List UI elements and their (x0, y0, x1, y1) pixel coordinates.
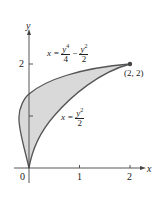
fraction-denominator: 2 (82, 55, 87, 64)
fraction-denominator: 2 (78, 119, 83, 128)
point-2-2 (128, 62, 132, 66)
equation-parabola-lhs: x = (61, 113, 73, 122)
fraction-y2-over-2: y2 2 (75, 107, 84, 129)
x-axis-arrow-icon (140, 166, 146, 170)
equation-quartic-lhs: x = (47, 49, 59, 58)
fraction-denominator: 4 (64, 55, 69, 64)
equation-quartic: x = y4 4 − y2 2 (47, 43, 88, 65)
plot-canvas (0, 0, 163, 197)
x-tick-label-1: 1 (77, 172, 82, 182)
x-axis-label: x (147, 164, 151, 174)
exponent: 2 (84, 43, 87, 49)
minus-sign: − (72, 49, 77, 58)
x-tick-label-2: 2 (127, 172, 132, 182)
equation-parabola: x = y2 2 (61, 107, 84, 129)
fraction-y4-over-4: y4 4 (61, 43, 70, 65)
point-label: (2, 2) (124, 69, 144, 78)
y-axis-label: y (26, 21, 30, 31)
x-tick-label-0: 0 (20, 172, 25, 182)
fraction-y2-over-2: y2 2 (79, 43, 88, 65)
exponent: 4 (66, 43, 69, 49)
y-tick-label-2: 2 (19, 59, 24, 69)
exponent: 2 (80, 107, 83, 113)
